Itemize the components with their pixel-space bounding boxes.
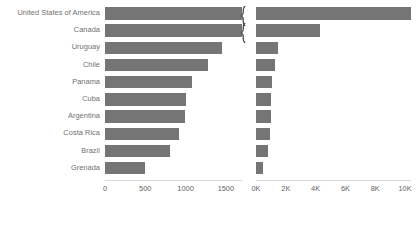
category-label-united-states-of-america: United States of America <box>0 8 100 18</box>
bar-left-chile[interactable] <box>105 59 208 71</box>
bar-row <box>105 22 242 39</box>
bar-row <box>256 5 411 22</box>
category-label-argentina: Argentina <box>0 111 100 121</box>
tick-label: 1000 <box>177 183 193 194</box>
bar-row <box>256 74 411 91</box>
bar-right-costa-rica[interactable] <box>256 128 270 140</box>
bar-row <box>256 91 411 108</box>
bar-row <box>105 91 242 108</box>
category-label-costa-rica: Costa Rica <box>0 128 100 138</box>
bar-row <box>105 74 242 91</box>
bar-left-cuba[interactable] <box>105 93 186 105</box>
tick-label: 4K <box>311 183 320 194</box>
bar-row <box>105 57 242 74</box>
bar-right-panama[interactable] <box>256 76 272 88</box>
bar-left-panama[interactable] <box>105 76 192 88</box>
bar-left-canada[interactable] <box>105 24 242 36</box>
tick-label: 10K <box>398 183 411 194</box>
bar-right-canada[interactable] <box>256 24 320 36</box>
bar-row <box>105 39 242 56</box>
bar-left-argentina[interactable] <box>105 110 185 122</box>
bar-left-uruguay[interactable] <box>105 42 222 54</box>
bar-left-grenada[interactable] <box>105 162 145 174</box>
tick-label: 8K <box>371 183 380 194</box>
tick-label: 0 <box>103 183 107 194</box>
bar-left-costa-rica[interactable] <box>105 128 179 140</box>
broken-axis-bar-chart: United States of America Canada Uruguay … <box>0 0 417 243</box>
bar-row <box>256 39 411 56</box>
bar-right-brazil[interactable] <box>256 145 268 157</box>
category-label-panama: Panama <box>0 77 100 87</box>
bar-right-cuba[interactable] <box>256 93 271 105</box>
bar-row <box>256 143 411 160</box>
category-label-brazil: Brazil <box>0 146 100 156</box>
bar-left-brazil[interactable] <box>105 145 170 157</box>
bar-row <box>105 160 242 177</box>
tick-label: 6K <box>341 183 350 194</box>
right-panel-axis-line <box>256 180 411 181</box>
tick-label: 500 <box>139 183 151 194</box>
bar-right-chile[interactable] <box>256 59 275 71</box>
right-panel-tick-labels: 0K2K4K6K8K10K <box>256 183 411 195</box>
bar-right-grenada[interactable] <box>256 162 263 174</box>
category-label-cuba: Cuba <box>0 94 100 104</box>
category-label-canada: Canada <box>0 25 100 35</box>
left-panel-tick-labels: 050010001500 <box>105 183 242 195</box>
bar-row <box>105 5 242 22</box>
bar-right-united-states-of-america[interactable] <box>256 7 411 19</box>
bar-row <box>256 108 411 125</box>
bar-row <box>256 57 411 74</box>
category-axis-labels: United States of America Canada Uruguay … <box>0 5 103 177</box>
right-panel-plot-area <box>256 5 411 177</box>
bar-left-united-states-of-america[interactable] <box>105 7 242 19</box>
category-label-uruguay: Uruguay <box>0 42 100 52</box>
category-label-chile: Chile <box>0 60 100 70</box>
bar-row <box>256 160 411 177</box>
bar-right-argentina[interactable] <box>256 110 271 122</box>
left-panel-plot-area <box>105 5 242 177</box>
annotation-group: Both bar charts start at zero <box>0 198 417 243</box>
bar-row <box>105 143 242 160</box>
left-panel-axis-line <box>105 180 242 181</box>
bar-row <box>105 125 242 142</box>
bar-row <box>105 108 242 125</box>
category-label-grenada: Grenada <box>0 163 100 173</box>
bar-row <box>256 125 411 142</box>
tick-label: 0K <box>251 183 260 194</box>
tick-label: 1500 <box>218 183 234 194</box>
bar-row <box>256 22 411 39</box>
tick-label: 2K <box>281 183 290 194</box>
bar-right-uruguay[interactable] <box>256 42 278 54</box>
axis-break-squiggle-icon <box>236 23 250 43</box>
